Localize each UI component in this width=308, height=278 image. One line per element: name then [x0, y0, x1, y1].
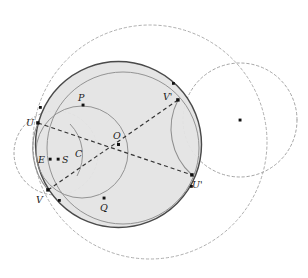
rim-marker-top-left [39, 106, 42, 109]
point-S [57, 158, 60, 161]
point-U [36, 121, 39, 124]
label-Uprime: U' [192, 179, 203, 190]
geometry-figure: U V U' V' O P Q E S C [0, 0, 308, 278]
label-Vprime: V' [163, 91, 172, 102]
point-P [82, 104, 85, 107]
point-Q [103, 197, 106, 200]
label-V: V [36, 194, 44, 205]
point-Vprime [176, 98, 179, 101]
label-O: O [113, 130, 121, 141]
point-Uprime [190, 173, 193, 176]
point-V [46, 188, 49, 191]
label-P: P [77, 92, 85, 103]
diagram-canvas: U V U' V' O P Q E S C [0, 0, 308, 278]
rim-marker-top-right [172, 82, 175, 85]
rim-marker-bottom-left [58, 199, 61, 202]
label-C: C [75, 148, 83, 159]
point-E [49, 158, 52, 161]
label-U: U [26, 117, 35, 128]
label-E: E [37, 154, 45, 165]
point-O [117, 143, 120, 146]
label-S: S [62, 154, 69, 165]
point-right-circle-center [239, 119, 242, 122]
label-Q: Q [100, 202, 108, 213]
